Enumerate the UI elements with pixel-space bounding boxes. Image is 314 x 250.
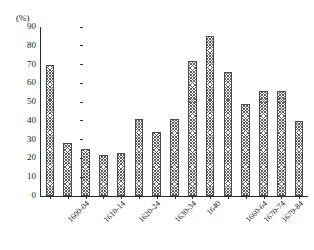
y-axis-tick-label: 50 bbox=[27, 96, 36, 107]
bar bbox=[63, 143, 72, 196]
bar bbox=[206, 36, 215, 196]
y-axis-tick-label: 70 bbox=[27, 59, 36, 70]
y-axis-tick-mark bbox=[80, 139, 83, 140]
y-axis-tick-mark bbox=[80, 120, 83, 121]
y-axis-tick-label: 30 bbox=[27, 134, 36, 145]
x-axis-label: 1630-34 bbox=[172, 199, 197, 224]
y-axis-tick-mark bbox=[80, 102, 83, 103]
bar bbox=[46, 65, 55, 196]
x-axis-label: 1600-04 bbox=[66, 199, 91, 224]
bar-chart: (%) 0102030405060708090 1600-041610-1416… bbox=[0, 0, 314, 250]
bar bbox=[170, 119, 179, 196]
y-axis-tick-label: 80 bbox=[27, 40, 36, 51]
plot-area: 0102030405060708090 bbox=[40, 27, 308, 196]
bar bbox=[188, 61, 197, 196]
y-axis-tick-label: 60 bbox=[27, 77, 36, 88]
y-axis-tick-label: 0 bbox=[32, 190, 37, 201]
x-axis-labels: 1600-041610-141620-241630-3416401660-641… bbox=[40, 199, 314, 250]
y-axis-tick-label: 20 bbox=[27, 152, 36, 163]
bar bbox=[99, 155, 108, 196]
y-axis-tick-label: 90 bbox=[27, 21, 36, 32]
clipped-title-fragment bbox=[18, 0, 298, 4]
y-axis-tick-label: 40 bbox=[27, 115, 36, 126]
y-axis-tick-label: 10 bbox=[27, 171, 36, 182]
y-axis-tick-mark bbox=[80, 64, 83, 65]
y-axis-tick-mark bbox=[80, 27, 83, 28]
bar bbox=[152, 132, 161, 196]
bar bbox=[259, 91, 268, 196]
bar bbox=[277, 91, 286, 196]
bar-series bbox=[41, 27, 308, 196]
y-axis-tick-mark bbox=[80, 158, 83, 159]
y-axis-tick-mark bbox=[80, 196, 83, 197]
bar bbox=[117, 153, 126, 196]
y-axis-tick-mark bbox=[80, 177, 83, 178]
bar bbox=[135, 119, 144, 196]
x-axis-label: 1620-24 bbox=[137, 199, 162, 224]
y-axis-tick-mark bbox=[80, 45, 83, 46]
x-axis-label: 1610-14 bbox=[101, 199, 126, 224]
x-axis-label: 1640 bbox=[205, 199, 223, 217]
y-axis-tick-mark bbox=[80, 83, 83, 84]
bar bbox=[224, 72, 233, 196]
bar bbox=[241, 104, 250, 196]
bar bbox=[81, 149, 90, 196]
bar bbox=[295, 121, 304, 196]
